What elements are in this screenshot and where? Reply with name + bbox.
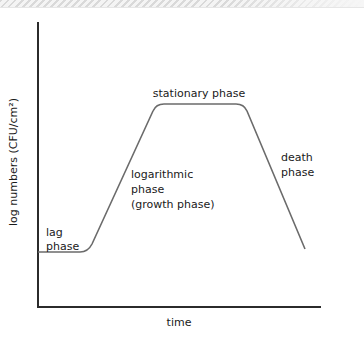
y-axis-label: log numbers (CFU/cm²) bbox=[7, 98, 20, 226]
stationary-phase-label: stationary phase bbox=[153, 87, 246, 100]
x-axis-label: time bbox=[167, 316, 192, 329]
log-phase-label-line-1: logarithmic bbox=[131, 168, 193, 181]
growth-curve-diagram: log numbers (CFU/cm²) time lag phase log… bbox=[0, 0, 364, 341]
death-phase-label-line-2: phase bbox=[281, 166, 314, 179]
log-phase-label-line-3: (growth phase) bbox=[131, 198, 215, 211]
death-phase-label-line-1: death bbox=[281, 151, 313, 164]
lag-phase-label-line-2: phase bbox=[46, 240, 79, 253]
log-phase-label-line-2: phase bbox=[131, 183, 164, 196]
lag-phase-label-line-1: lag bbox=[46, 226, 63, 239]
